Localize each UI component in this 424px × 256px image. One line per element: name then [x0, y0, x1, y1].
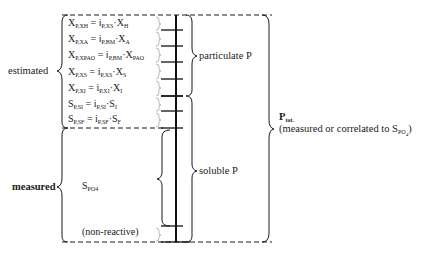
particulate-p-label: particulate P [199, 50, 252, 62]
s-po4-label: SPO4 [82, 180, 98, 195]
spo4-brace [157, 130, 170, 226]
equation-x-p-xa: XP,XA = iP,BM·XA [68, 33, 130, 48]
total-brace [262, 15, 274, 242]
equation-s-p-sf: SP,SF = iP,SF·SF [68, 113, 121, 128]
measured-brace [57, 128, 68, 242]
p-total-note: (measured or correlated to SPO4) [279, 123, 412, 141]
equation-x-p-xh: XP,XH = iP,XS·XH [68, 17, 128, 32]
measured-label: measured [12, 181, 56, 193]
equation-x-p-xs: XP,XS = iP,XS·XS [68, 66, 126, 81]
estimated-brace [57, 15, 68, 128]
equation-x-p-xi: XP,XI = iP,XI·XI [68, 82, 122, 97]
soluble-brace [186, 96, 197, 242]
soluble-p-label: soluble P [199, 165, 238, 177]
particulate-brace [186, 15, 197, 96]
equation-s-p-si: SP,SI = iP,SI·SI [68, 98, 117, 113]
equation-x-p-xpao: XP,XPAO = iP,BM·XPAO [68, 49, 144, 64]
non-reactive-label: (non-reactive) [82, 226, 139, 238]
estimated-label: estimated [8, 65, 48, 77]
